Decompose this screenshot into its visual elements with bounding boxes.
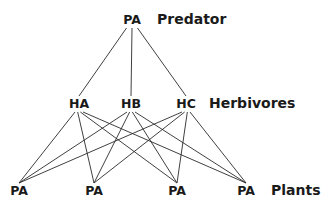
- level-label-predator: Predator: [157, 11, 226, 27]
- node-pl3: PA: [168, 183, 186, 198]
- edge-ha-pl3: [80, 112, 177, 183]
- edge-hb-pl1: [19, 112, 127, 183]
- level-label-plants: Plants: [271, 182, 321, 198]
- edge-hc-pl1: [19, 112, 182, 183]
- node-pl2: PA: [85, 183, 103, 198]
- node-hc: HC: [176, 96, 196, 111]
- food-web-diagram: PAHAHBHCPAPAPAPA PredatorHerbivoresPlant…: [0, 0, 321, 207]
- edge-p-hc: [138, 28, 187, 96]
- node-hb: HB: [121, 96, 141, 111]
- edge-p-hb: [131, 28, 132, 96]
- edge-hb-pl4: [135, 112, 246, 183]
- edge-hc-pl4: [190, 112, 246, 183]
- node-pl1: PA: [10, 183, 28, 198]
- edge-hc-pl3: [177, 112, 187, 183]
- node-p: PA: [123, 12, 141, 27]
- level-label-herbivores: Herbivores: [209, 95, 295, 111]
- edge-hb-pl2: [94, 112, 130, 183]
- node-ha: HA: [69, 96, 89, 111]
- edge-ha-pl2: [78, 112, 94, 183]
- edge-p-ha: [79, 28, 127, 96]
- node-pl4: PA: [237, 183, 255, 198]
- edge-ha-pl1: [19, 112, 75, 183]
